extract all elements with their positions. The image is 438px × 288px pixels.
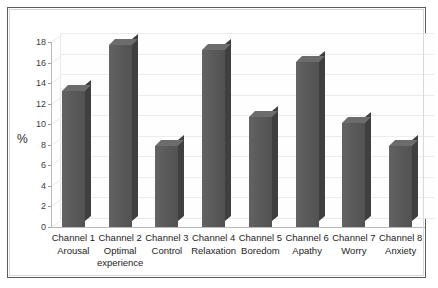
- x-axis-label: Channel 1Arousal: [50, 232, 97, 257]
- x-axis-label: Channel 3Control: [144, 232, 191, 257]
- bar-front-face: [202, 50, 225, 227]
- axis-baseline: [51, 227, 425, 228]
- x-axis-label: Channel 8Anxiety: [377, 232, 424, 257]
- bar-side-face: [272, 106, 278, 221]
- y-tick-label: 6: [41, 161, 46, 170]
- x-axis-channel: Channel 7: [331, 232, 378, 245]
- bar-front-face: [155, 146, 178, 227]
- bar-side-face: [85, 80, 91, 221]
- x-axis-channel-name: Control: [144, 245, 191, 258]
- y-tick-label: 2: [41, 202, 46, 211]
- x-axis-channel: Channel 5: [237, 232, 284, 245]
- x-axis-channel-name: Arousal: [50, 245, 97, 258]
- bar-side-face: [365, 112, 371, 221]
- bar-column[interactable]: [249, 117, 272, 227]
- bar-side-face: [412, 135, 418, 221]
- bar-front-face: [109, 45, 132, 227]
- bar-column[interactable]: [342, 123, 365, 227]
- bar-column[interactable]: [202, 50, 225, 227]
- x-axis-channel: Channel 4: [190, 232, 237, 245]
- y-tick-label: 0: [41, 223, 46, 232]
- x-axis-channel-name: Relaxation: [190, 245, 237, 258]
- bar-side-face: [178, 135, 184, 221]
- x-axis-channel: Channel 3: [144, 232, 191, 245]
- y-tick-label: 12: [36, 100, 46, 109]
- bar-column[interactable]: [389, 146, 412, 227]
- gridline: [60, 33, 434, 34]
- plot-area: [51, 42, 425, 227]
- y-tick-label: 8: [41, 141, 46, 150]
- y-tick-label: 16: [36, 59, 46, 68]
- y-axis-tick-labels: 181614121086420: [26, 42, 46, 228]
- x-axis-label: Channel 4Relaxation: [190, 232, 237, 257]
- y-axis-line: [51, 42, 52, 228]
- bar-front-face: [296, 62, 319, 227]
- x-axis-channel-name: Apathy: [284, 245, 331, 258]
- bar-side-face: [225, 39, 231, 221]
- bar-side-face: [319, 50, 325, 221]
- bar-front-face: [62, 91, 85, 227]
- x-axis-channel: Channel 8: [377, 232, 424, 245]
- x-axis-channel-name: Worry: [331, 245, 378, 258]
- bar-column[interactable]: [109, 45, 132, 227]
- x-axis-category-labels: Channel 1ArousalChannel 2Optimal experie…: [51, 232, 425, 282]
- x-axis-label: Channel 6Apathy: [284, 232, 331, 257]
- chart-figure: % 181614121086420 Channel 1ArousalChanne…: [0, 0, 438, 288]
- x-axis-label: Channel 2Optimal experience: [97, 232, 144, 270]
- x-axis-channel-name: Optimal experience: [97, 245, 144, 270]
- x-axis-channel: Channel 6: [284, 232, 331, 245]
- bar-front-face: [342, 123, 365, 227]
- x-axis-channel: Channel 1: [50, 232, 97, 245]
- x-axis-channel-name: Boredom: [237, 245, 284, 258]
- y-tick-label: 18: [36, 38, 46, 47]
- y-tick-label: 14: [36, 79, 46, 88]
- bar-column[interactable]: [62, 91, 85, 227]
- x-axis-channel: Channel 2: [97, 232, 144, 245]
- x-axis-label: Channel 5Boredom: [237, 232, 284, 257]
- chart-frame-border: % 181614121086420 Channel 1ArousalChanne…: [7, 7, 426, 278]
- bar-column[interactable]: [296, 62, 319, 227]
- bar-front-face: [249, 117, 272, 227]
- x-axis-channel-name: Anxiety: [377, 245, 424, 258]
- bar-front-face: [389, 146, 412, 227]
- bar-column[interactable]: [155, 146, 178, 227]
- bar-side-face: [132, 34, 138, 221]
- x-axis-label: Channel 7Worry: [331, 232, 378, 257]
- y-tick-label: 10: [36, 120, 46, 129]
- y-tick-label: 4: [41, 182, 46, 191]
